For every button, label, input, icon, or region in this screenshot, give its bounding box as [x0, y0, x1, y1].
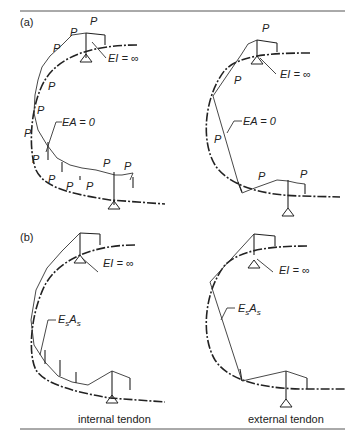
load-label-p: P [103, 157, 111, 169]
link [238, 182, 242, 192]
beam-axis [206, 246, 345, 389]
link [254, 234, 275, 236]
load-label-p: P [37, 104, 45, 116]
load-label-p: P [124, 160, 132, 172]
load-label-p: P [32, 153, 40, 165]
load-label-p: P [86, 180, 94, 192]
panel-a-internal: (a) P P P P P P P P P P P P EI = ∞ EA = … [20, 15, 165, 209]
figure-diagram: (a) P P P P P P P P P P P P EI = ∞ EA = … [0, 0, 363, 446]
load-label-p: P [262, 22, 270, 34]
load-label-p: P [90, 15, 98, 27]
leader-line [260, 58, 276, 74]
tendon-label: EsAs [238, 302, 261, 317]
support-triangle-icon [280, 399, 292, 407]
load-label-p: P [53, 42, 61, 54]
column-label-internal: internal tendon [78, 413, 151, 425]
panel-b-internal: (b) EI = ∞ EsAs internal tendon [20, 231, 165, 425]
load-label-p: P [48, 173, 56, 185]
load-label-p: P [66, 180, 74, 192]
support-triangle-icon [248, 260, 260, 268]
column-label-external: external tendon [248, 413, 324, 425]
panel-label-b: (b) [20, 231, 33, 243]
leader-line [92, 42, 106, 58]
rigid-label: EI = ∞ [108, 52, 139, 64]
tendon-label: EsAs [58, 313, 81, 328]
leader-line [227, 121, 242, 133]
panel-label-a: (a) [20, 16, 33, 28]
load-label-p: P [24, 127, 32, 139]
support-triangle-icon [282, 208, 294, 216]
leader-line [221, 308, 235, 320]
panel-b-external: EI = ∞ EsAs external tendon [206, 234, 345, 425]
link [86, 33, 105, 35]
leader-line [82, 258, 98, 272]
load-label-p: P [300, 168, 308, 180]
panel-a-external: P P P P P EI = ∞ EA = 0 [206, 22, 340, 216]
leader-line [40, 320, 56, 355]
beam-axis [31, 245, 165, 402]
load-label-p: P [234, 74, 242, 86]
link [80, 233, 100, 234]
load-label-p: P [214, 133, 222, 145]
rigid-label: EI = ∞ [103, 257, 134, 269]
tendon-label: EA = 0 [62, 116, 96, 128]
load-label-p: P [48, 80, 56, 92]
rigid-label: EI = ∞ [280, 68, 311, 80]
link [257, 40, 277, 43]
leader-line [257, 259, 273, 272]
load-label-p: P [70, 26, 78, 38]
rigid-label: EI = ∞ [279, 264, 310, 276]
tendon-label: EA = 0 [243, 115, 277, 127]
load-label-p: P [258, 170, 266, 182]
